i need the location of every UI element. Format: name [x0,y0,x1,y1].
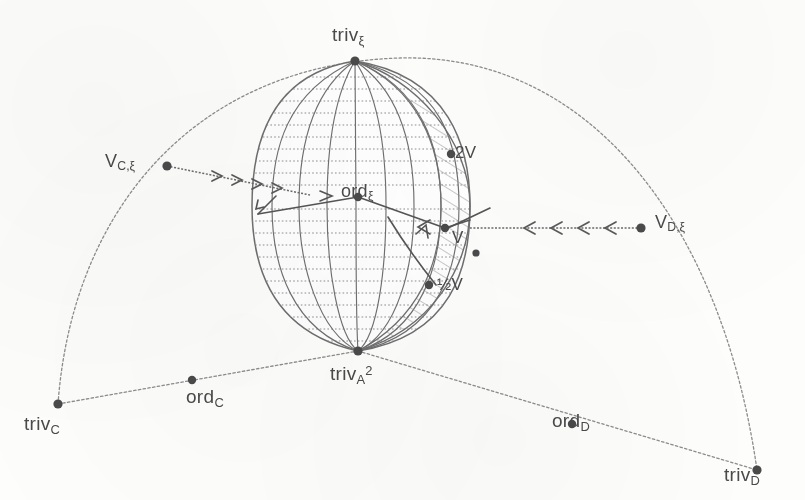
label-left-mid: ordC [186,386,224,410]
label-lune-lower: ½V [437,275,463,295]
dot-lune-middle [441,224,449,232]
label-bottom-right-vertex: trivD [724,464,760,488]
sphere [240,61,482,351]
dot-left-mid [188,376,196,384]
dot-top-vertex [350,56,359,65]
label-left-vertex: VC,ξ [105,151,135,173]
bottom-connectors [58,351,757,470]
label-lune-upper: 2V [455,143,476,163]
label-top-vertex: trivξ [332,24,364,48]
right-connector [470,222,641,234]
dot-inner-extra [472,249,479,256]
label-right-vertex: VD,ξ [655,212,685,234]
dot-bottom-left-vertex [53,399,62,408]
label-right-mid: ordD [552,410,590,434]
dot-lune-lower [425,281,433,289]
dot-bottom-vertex [353,346,362,355]
diagram-svg [0,0,805,500]
label-bottom-vertex: trivA2 [330,363,372,387]
label-center: ordξ [341,181,373,203]
dot-right-vertex [636,223,645,232]
figure-canvas: trivξ VC,ξ VD,ξ ordξ trivA2 trivC trivD … [0,0,805,500]
dot-lune-upper [447,150,455,158]
label-bottom-left-vertex: trivC [24,413,60,437]
label-lune-middle: V [452,228,464,248]
dot-left-vertex [162,161,171,170]
right-arrow-chain [524,222,616,234]
